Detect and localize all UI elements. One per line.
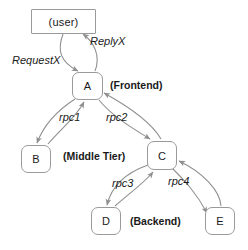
node-c-label: C <box>158 150 166 162</box>
node-user-label: (user) <box>49 16 79 28</box>
node-a-label: A <box>84 80 92 92</box>
tier-label-middle-tier: (Middle Tier) <box>63 151 125 162</box>
diagram-canvas: (user) A B C D E RequestX ReplyX rpc1 rp… <box>0 0 248 250</box>
tier-label-frontend: (Frontend) <box>110 80 163 91</box>
node-b-label: B <box>32 153 40 165</box>
node-user[interactable]: (user) <box>31 9 96 34</box>
node-e[interactable]: E <box>205 207 235 235</box>
tier-label-backend: (Backend) <box>130 216 181 227</box>
edge-label-rpc3: rpc3 <box>112 178 133 189</box>
edge-b-to-a <box>48 102 84 144</box>
edge-label-rpc2: rpc2 <box>106 112 127 123</box>
node-d-label: D <box>102 215 110 227</box>
node-b[interactable]: B <box>21 145 51 173</box>
edge-user-to-a <box>60 34 78 71</box>
node-d[interactable]: D <box>91 207 121 235</box>
edge-label-rpc1: rpc1 <box>59 112 80 123</box>
edge-label-requestx: RequestX <box>12 55 60 66</box>
edge-c-to-e <box>171 167 207 213</box>
edge-label-replyx: ReplyX <box>90 36 125 47</box>
node-c[interactable]: C <box>147 141 177 170</box>
node-a[interactable]: A <box>72 72 103 100</box>
edge-label-rpc4: rpc4 <box>168 176 189 187</box>
node-e-label: E <box>216 215 224 227</box>
